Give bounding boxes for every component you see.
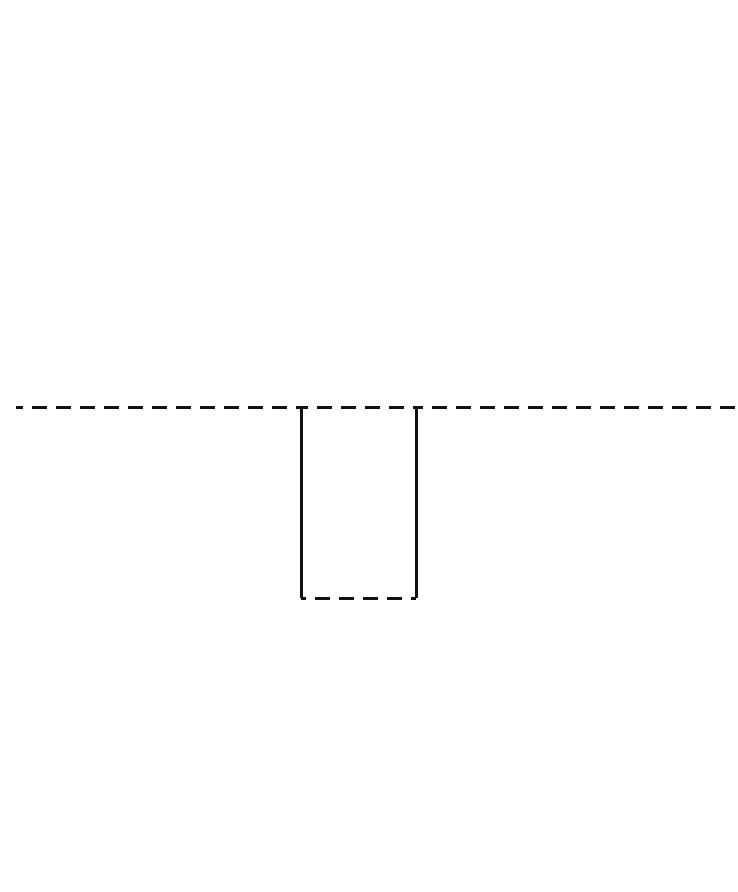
figure-canvas: Minimal line diagram: a horizontal dashe… xyxy=(0,0,738,892)
background-rect xyxy=(0,0,738,892)
line-diagram xyxy=(0,0,738,892)
